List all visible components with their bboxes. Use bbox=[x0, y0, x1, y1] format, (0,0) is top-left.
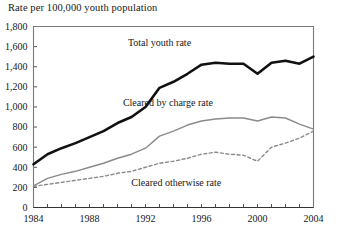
x-tick-label: 1996 bbox=[192, 213, 212, 224]
y-tick-label: 1,600 bbox=[5, 41, 28, 52]
series-line bbox=[34, 117, 314, 186]
x-axis-tick-labels: 198419881992199620002004 bbox=[24, 213, 324, 224]
line-chart-plot: 02004006008001,0001,2001,4001,6001,800 1… bbox=[0, 0, 340, 249]
x-tick-label: 1988 bbox=[80, 213, 100, 224]
y-tick-label: 1,400 bbox=[5, 61, 28, 72]
y-axis-tick-labels: 02004006008001,0001,2001,4001,6001,800 bbox=[5, 21, 28, 213]
y-tick-label: 0 bbox=[23, 202, 28, 213]
y-tick-label: 1,000 bbox=[5, 101, 28, 112]
y-tick-label: 400 bbox=[13, 162, 28, 173]
series-label: Cleared by charge rate bbox=[123, 97, 214, 108]
series-label: Total youth rate bbox=[128, 37, 192, 48]
y-tick-label: 1,800 bbox=[5, 21, 28, 32]
x-tick-label: 2004 bbox=[304, 213, 324, 224]
y-tick-label: 1,200 bbox=[5, 81, 28, 92]
series-label: Cleared otherwise rate bbox=[131, 177, 222, 188]
chart-figure: Rate per 100,000 youth population 020040… bbox=[0, 0, 340, 249]
x-tick-label: 1992 bbox=[136, 213, 156, 224]
data-series-lines bbox=[34, 57, 314, 187]
x-tick-label: 1984 bbox=[24, 213, 44, 224]
y-tick-label: 200 bbox=[13, 182, 28, 193]
y-tick-label: 600 bbox=[13, 142, 28, 153]
y-tick-label: 800 bbox=[13, 121, 28, 132]
x-tick-label: 2000 bbox=[248, 213, 268, 224]
